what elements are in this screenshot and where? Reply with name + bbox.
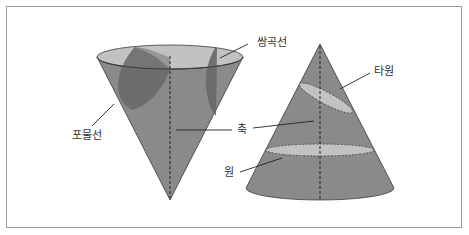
conic-sections-diagram <box>0 0 469 235</box>
label-ellipse: 타원 <box>374 66 394 77</box>
upright-cone <box>246 44 394 200</box>
label-parabola: 포물선 <box>72 130 102 141</box>
inverted-cone <box>97 45 243 200</box>
label-circle: 원 <box>224 167 234 178</box>
label-axis: 축 <box>237 124 247 135</box>
label-hyperbola: 쌍곡선 <box>257 37 287 48</box>
circle-section <box>266 144 374 156</box>
